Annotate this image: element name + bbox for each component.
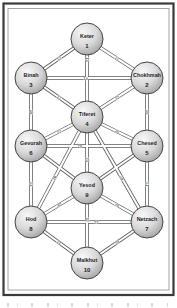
sefirah-circle-keter	[71, 23, 103, 55]
path-number-label-32: 32	[85, 217, 90, 222]
sefirah-node-netzach: Netzach7	[131, 206, 163, 238]
sefirah-name-chesed: Chesed	[137, 140, 156, 146]
sefirah-node-tiferet: Tiferet4	[71, 101, 103, 133]
sefirah-node-chokhmah: Chokhmah2	[131, 62, 163, 94]
sefirah-node-malkhut: Malkhut10	[71, 247, 103, 279]
sefirah-name-netzach: Netzach	[137, 216, 158, 222]
sefirah-node-keter: Keter1	[71, 23, 103, 55]
sefirah-circle-hod	[15, 206, 47, 238]
sefirah-name-gevurah: Gevurah	[20, 140, 42, 146]
sefirah-name-binah: Binah	[24, 72, 39, 78]
sefirah-node-hod: Hod8	[15, 206, 47, 238]
sefirah-node-chesed: Chesed5	[131, 130, 163, 162]
path-number-label-13: 13	[85, 57, 90, 62]
sefirah-circle-chokhmah	[131, 62, 163, 94]
path-number-label-21: 21	[145, 182, 150, 187]
tree-of-life-figure: 1112131415161718192021222324252627282930…	[0, 0, 177, 308]
path-number-label-19: 19	[77, 144, 82, 149]
sefirah-number-malkhut: 10	[84, 267, 91, 273]
sefirah-name-tiferet: Tiferet	[79, 111, 96, 117]
tree-of-life-diagram: 1112131415161718192021222324252627282930…	[0, 0, 177, 308]
sefirah-name-hod: Hod	[26, 216, 36, 222]
sefirah-circle-gevurah	[15, 130, 47, 162]
sefirah-circle-malkhut	[71, 247, 103, 279]
sefirah-circle-yesod	[71, 172, 103, 204]
path-number-label-27: 27	[94, 220, 99, 225]
cropped-caption-text	[7, 303, 168, 307]
sefirah-node-binah: Binah3	[15, 62, 47, 94]
sefirah-circle-chesed	[131, 130, 163, 162]
sefirah-name-malkhut: Malkhut	[77, 257, 98, 263]
path-number-label-25: 25	[85, 157, 90, 162]
sefirah-circle-netzach	[131, 206, 163, 238]
sefirah-name-chokhmah: Chokhmah	[133, 72, 161, 78]
path-number-label-14: 14	[83, 76, 88, 81]
sefirah-circle-tiferet	[71, 101, 103, 133]
path-number-label-18: 18	[29, 110, 34, 115]
path-number-label-23: 23	[29, 182, 34, 187]
sefirah-name-yesod: Yesod	[79, 182, 95, 188]
path-number-label-16: 16	[145, 110, 150, 115]
sefirah-circle-binah	[15, 62, 47, 94]
sefirah-name-keter: Keter	[80, 33, 95, 39]
sefirah-node-gevurah: Gevurah6	[15, 130, 47, 162]
sefirah-node-yesod: Yesod9	[71, 172, 103, 204]
